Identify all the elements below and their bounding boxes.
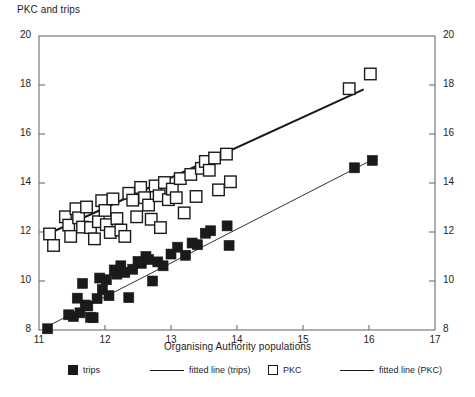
y-tick-label-left: 10 [0,274,31,285]
data-point-pkc [204,165,216,177]
data-point-trips [349,163,359,173]
legend-filled-square-icon [68,365,78,375]
data-point-trips [101,275,111,285]
data-point-pkc [225,176,237,188]
data-point-pkc [89,233,101,245]
data-point-trips [104,291,114,301]
data-point-pkc [99,205,111,217]
data-point-trips [83,301,93,311]
y-tick-label-left: 8 [0,323,31,334]
y-tick-label-left: 16 [0,127,31,138]
data-point-pkc [44,228,56,240]
data-point-trips [88,313,98,323]
y-tick-label-right: 20 [443,29,475,40]
data-point-pkc [185,169,197,181]
data-point-pkc [65,231,77,243]
legend-label: fitted line (PKC) [379,365,442,375]
y-tick-label-right: 12 [443,225,475,236]
data-point-trips [78,278,88,288]
y-tick-label-left: 12 [0,225,31,236]
legend-item[interactable]: trips [68,361,100,379]
legend-line-icon [340,370,374,371]
chart-title: PKC and trips [17,4,80,15]
y-tick-label-right: 18 [443,78,475,89]
data-point-pkc [190,191,202,203]
data-point-pkc [343,83,355,95]
data-point-pkc [155,222,167,234]
data-point-pkc [174,173,186,185]
data-point-pkc [221,148,233,160]
data-point-trips [192,240,202,250]
legend-label: trips [83,365,100,375]
y-tick-label-left: 20 [0,29,31,40]
data-point-trips [92,294,102,304]
data-point-pkc [107,193,119,205]
data-point-trips [206,226,216,236]
legend-line-icon [150,370,184,371]
y-tick-label-left: 18 [0,78,31,89]
data-point-pkc [143,199,155,211]
data-point-pkc [131,211,143,223]
data-point-pkc [111,213,123,225]
data-point-trips [43,324,53,334]
y-tick-label-right: 16 [443,127,475,138]
chart-legend: tripsfitted line (trips)PKCfitted line (… [0,361,475,381]
data-point-trips [367,155,377,165]
y-tick-label-right: 14 [443,176,475,187]
data-point-pkc [365,68,377,80]
data-point-pkc [178,207,190,219]
legend-open-square-icon [268,365,278,375]
data-point-pkc [171,192,183,204]
data-point-trips [222,221,232,231]
y-tick-label-right: 8 [443,323,475,334]
data-point-pkc [48,240,60,252]
legend-label: PKC [283,365,302,375]
y-tick-label-right: 10 [443,274,475,285]
data-point-trips [158,261,168,271]
data-point-trips [144,254,154,264]
legend-item[interactable]: fitted line (trips) [150,361,251,379]
data-point-pkc [105,227,117,239]
data-point-trips [148,276,158,286]
data-point-pkc [209,152,221,164]
data-point-trips [124,293,134,303]
chart-container: PKC and trips 11121314151617881010121214… [0,0,475,397]
y-tick-label-left: 14 [0,176,31,187]
data-point-pkc [127,194,139,206]
legend-item[interactable]: PKC [268,361,302,379]
data-point-trips [224,240,234,250]
data-point-pkc [213,184,225,196]
legend-item[interactable]: fitted line (PKC) [340,361,442,379]
data-point-trips [181,250,191,260]
legend-label: fitted line (trips) [189,365,251,375]
data-point-pkc [119,231,131,243]
x-axis-title: Organising Authority populations [0,341,475,352]
data-point-pkc [81,201,93,213]
fitted-lines-group [48,89,373,326]
data-points-group [43,68,378,334]
